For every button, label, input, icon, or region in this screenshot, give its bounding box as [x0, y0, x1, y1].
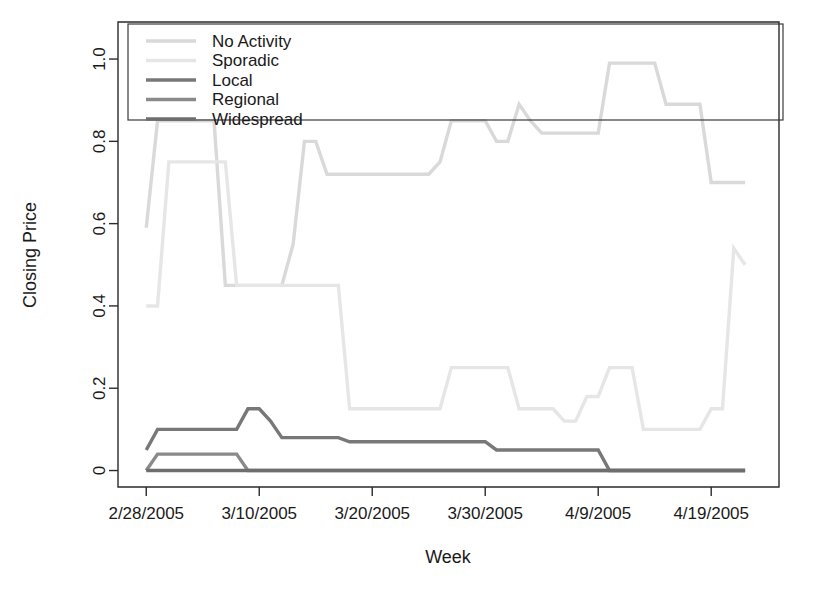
x-tick-label: 3/20/2005	[334, 504, 410, 523]
x-tick-label: 3/10/2005	[221, 504, 297, 523]
legend-label-regional: Regional	[212, 90, 279, 109]
y-tick-label: 1.0	[91, 47, 110, 71]
x-axis-title: Week	[425, 547, 472, 567]
y-tick-label: 0.6	[91, 212, 110, 236]
legend-label-widespread: Widespread	[212, 110, 303, 129]
x-tick-label: 4/19/2005	[673, 504, 749, 523]
legend-label-local: Local	[212, 71, 253, 90]
y-tick-label: 0.4	[91, 294, 110, 318]
line-chart: 00.20.40.60.81.0 2/28/20053/10/20053/20/…	[0, 0, 816, 596]
legend-label-sporadic: Sporadic	[212, 51, 280, 70]
x-tick-label: 4/9/2005	[565, 504, 631, 523]
chart-container: 00.20.40.60.81.0 2/28/20053/10/20053/20/…	[0, 0, 816, 596]
y-tick-label: 0	[91, 466, 110, 475]
y-axis-title: Closing Price	[20, 202, 40, 308]
x-tick-label: 2/28/2005	[108, 504, 184, 523]
legend-label-no-activity: No Activity	[212, 32, 292, 51]
x-tick-label: 3/30/2005	[447, 504, 523, 523]
y-tick-label: 0.8	[91, 130, 110, 154]
y-tick-label: 0.2	[91, 376, 110, 400]
